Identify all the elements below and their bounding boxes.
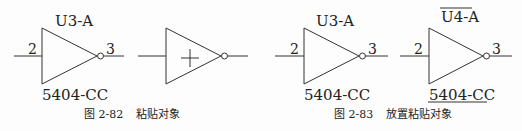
pin-in-label: 2 — [414, 41, 423, 57]
inverter-triangle-icon — [166, 28, 221, 84]
figure-caption-text: 粘贴对象 — [136, 107, 180, 121]
gate-ref-label: U3-A — [316, 12, 354, 30]
figure-caption-number: 图 2-83 — [334, 108, 373, 121]
gate-ref-label: U3-A — [55, 12, 93, 30]
pin-out-label: 3 — [492, 41, 501, 57]
gate-ref-label: U4-A — [441, 8, 479, 26]
inversion-bubble-icon — [360, 53, 366, 59]
inverter-triangle-icon — [429, 28, 483, 84]
inversion-bubble-icon — [484, 53, 490, 59]
gate-part-label: 5404-CC — [304, 86, 370, 104]
pin-out-label: 3 — [368, 41, 377, 57]
inversion-bubble-icon — [98, 53, 104, 59]
figure-caption-number: 图 2-82 — [84, 108, 123, 121]
gate-part-label: 5404-CC — [429, 86, 495, 104]
inverter-triangle-icon — [42, 28, 97, 84]
pin-in-label: 2 — [290, 41, 299, 57]
pin-out-label: 3 — [106, 41, 115, 57]
figure-caption-text: 放置粘贴对象 — [386, 107, 452, 121]
gate-part-label: 5404-CC — [42, 86, 108, 104]
inverter-triangle-icon — [304, 28, 359, 84]
pin-in-label: 2 — [28, 41, 37, 57]
inversion-bubble-icon — [222, 53, 228, 59]
inverter-gate-dragging[interactable] — [138, 28, 248, 84]
schematic-canvas: U3-A 2 3 5404-CC U3-A 2 3 5404-CC U4-A 2… — [0, 0, 522, 131]
